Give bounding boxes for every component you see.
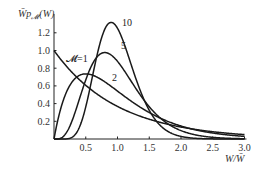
curves	[54, 22, 245, 139]
y-axis-title-main: W̄p	[18, 8, 31, 19]
y-tick-label: 0.8	[38, 63, 51, 74]
gamma-pdf-chart: 0.51.01.52.02.53.0 0.20.40.60.81.01.2 𝓜=…	[0, 0, 262, 171]
curve-label-M-2: 2	[112, 72, 117, 83]
y-tick-label: 0.2	[38, 116, 51, 127]
x-tick-label: 2.5	[207, 142, 220, 153]
x-tick-label: 3.0	[238, 142, 251, 153]
x-tick-label: 0.5	[80, 142, 93, 153]
x-tick-label: 1.5	[143, 142, 156, 153]
x-tick-label: 1.0	[111, 142, 124, 153]
y-tick-label: 1.2	[38, 27, 51, 38]
y-axis-title: W̄p𝓜(W)	[18, 8, 55, 21]
y-axis-title-tail: (W)	[39, 8, 55, 20]
curve-label-M-5: 5	[121, 40, 126, 51]
x-tick-label: 2.0	[175, 142, 188, 153]
curve-label-M-10: 10	[122, 17, 132, 28]
curve-label-M-1: 𝓜=1	[66, 53, 88, 64]
y-tick-label: 0.4	[38, 98, 51, 109]
y-tick-label: 0.6	[38, 80, 51, 91]
curve-M-10	[54, 22, 245, 139]
curve-M-5	[54, 53, 245, 139]
y-tick-label: 1.0	[38, 45, 51, 56]
x-axis-title: W/W̄	[225, 153, 246, 164]
